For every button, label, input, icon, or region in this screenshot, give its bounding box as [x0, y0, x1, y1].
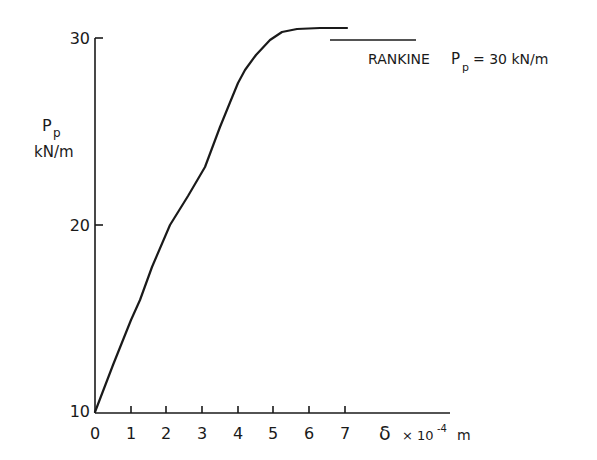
- x-axis-symbol: δ: [379, 422, 391, 444]
- x-axis-unit: m: [457, 427, 471, 443]
- y-tick-label-10: 10: [70, 402, 90, 421]
- x-tick-label-7: 7: [340, 424, 350, 443]
- rankine-label: RANKINE: [368, 51, 430, 67]
- y-tick-label-20: 20: [70, 216, 90, 235]
- x-tick-label-2: 2: [161, 424, 171, 443]
- y-axis-symbol: P: [42, 116, 52, 135]
- x-tick-label-0: 0: [90, 424, 100, 443]
- x-tick-label-6: 6: [304, 424, 314, 443]
- pp-subscript: p: [462, 61, 469, 74]
- x-tick-label-1: 1: [126, 424, 136, 443]
- x-tick-label-5: 5: [268, 424, 278, 443]
- measured-curve: [95, 28, 347, 412]
- pp-value: = 30 kN/m: [473, 51, 548, 67]
- y-tick-label-30: 30: [70, 29, 90, 48]
- pp-symbol: P: [451, 50, 460, 68]
- chart: 30 20 10 0 1 2 3 4 5 6 7 δ × 10 -4 m P p…: [0, 0, 597, 460]
- x-tick-label-3: 3: [197, 424, 207, 443]
- x-axis-multiplier: × 10: [402, 428, 434, 443]
- x-axis-exponent: -4: [437, 423, 447, 434]
- x-tick-label-4: 4: [233, 424, 243, 443]
- y-axis-subscript: p: [53, 126, 61, 140]
- axes: [95, 38, 450, 413]
- y-axis-unit: kN/m: [34, 143, 74, 161]
